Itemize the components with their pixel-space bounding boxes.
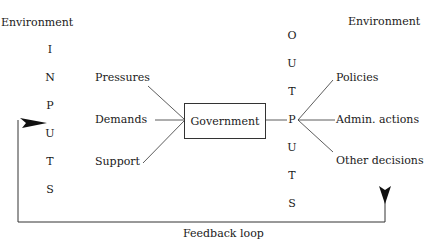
policies-label: Policies <box>336 72 378 84</box>
outputs-letter: T <box>286 86 298 98</box>
feedback-arrow-down-icon <box>379 186 391 204</box>
inputs-letter: S <box>44 184 56 196</box>
outputs-letter: U <box>286 142 298 154</box>
support-label: Support <box>95 156 140 168</box>
pressures-label: Pressures <box>95 72 150 84</box>
inputs-letter: T <box>44 156 56 168</box>
support-line <box>143 121 184 163</box>
outputs-letter: O <box>286 30 298 42</box>
right-environment-label: Environment <box>348 16 420 28</box>
feedback-loop-label: Feedback loop <box>183 228 264 240</box>
inputs-letter: U <box>44 128 56 140</box>
outputs-letter: S <box>286 198 298 210</box>
government-label: Government <box>191 115 260 128</box>
feedback-arrow-left-icon <box>20 118 47 128</box>
demands-label: Demands <box>95 114 147 126</box>
outputs-letter: P <box>286 114 298 126</box>
inputs-letter: P <box>44 100 56 112</box>
inputs-letter: N <box>44 72 56 84</box>
other-decisions-line <box>298 120 333 152</box>
other-decisions-label: Other decisions <box>336 155 424 167</box>
government-box: Government <box>184 103 266 139</box>
outputs-letter: T <box>286 170 298 182</box>
policies-line <box>298 80 333 120</box>
outputs-letter: U <box>286 58 298 70</box>
left-environment-label: Environment <box>1 17 73 29</box>
inputs-letter: I <box>44 44 56 56</box>
pressures-line <box>148 86 184 119</box>
admin-actions-label: Admin. actions <box>336 114 419 126</box>
